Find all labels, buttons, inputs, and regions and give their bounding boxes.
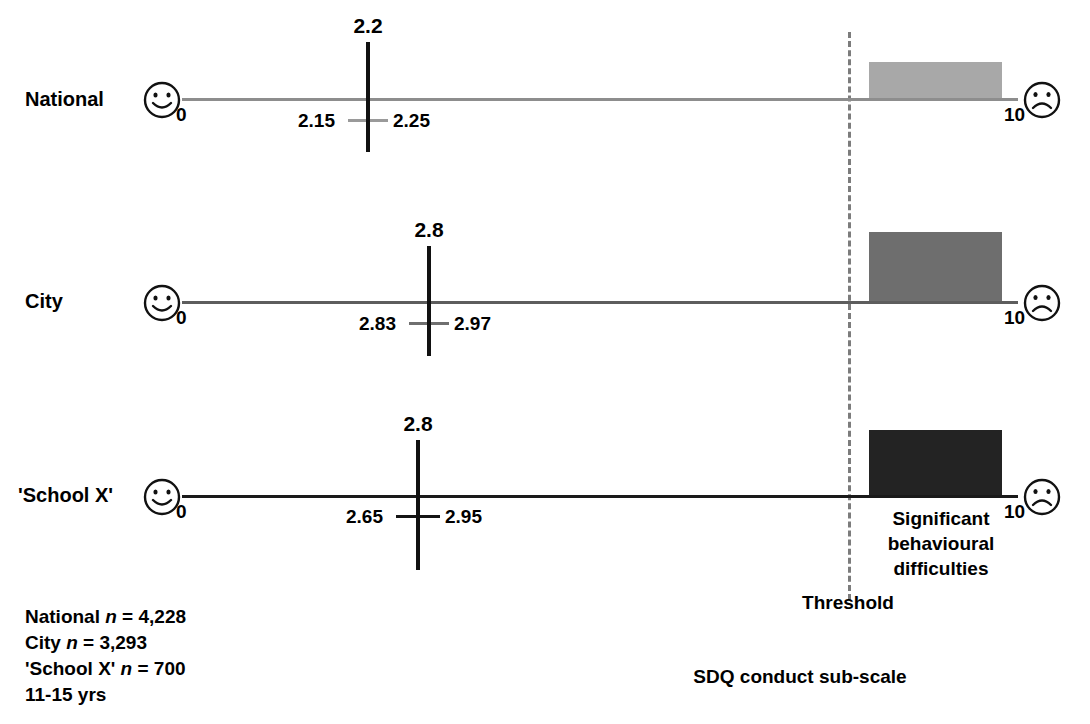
sample-size-notes: National n = 4,228 City n = 3,293 'Schoo… (25, 604, 186, 708)
row-label-city: City (25, 290, 63, 313)
ci-whisker-right-national (370, 119, 388, 122)
sad-face-icon (1022, 477, 1062, 517)
ci-lower-label-national: 2.15 (215, 110, 335, 132)
estimate-value-city: 2.8 (379, 218, 479, 242)
note-national-n: n (105, 606, 117, 627)
note-national-suffix: = 4,228 (117, 606, 186, 627)
axis-line-city (182, 301, 1018, 304)
axis-line-school-x (182, 495, 1018, 498)
axis-min-label-city: 0 (176, 307, 187, 329)
ci-lower-label-school-x: 2.65 (263, 506, 383, 528)
ci-lower-label-city: 2.83 (276, 313, 396, 335)
note-line-school-x: 'School X' n = 700 (25, 656, 186, 682)
note-line-city: City n = 3,293 (25, 630, 186, 656)
note-line-national: National n = 4,228 (25, 604, 186, 630)
note-city-n: n (66, 632, 78, 653)
ci-whisker-right-city (431, 322, 449, 325)
estimate-marker-national (366, 42, 370, 152)
note-line-age-range: 11-15 yrs (25, 682, 186, 708)
sad-face-icon (1022, 283, 1062, 323)
note-national-prefix: National (25, 606, 105, 627)
ci-whisker-left-city (409, 322, 427, 325)
note-school-suffix: = 700 (132, 658, 185, 679)
significance-caption-line-3: difficulties (868, 556, 1014, 581)
significance-region-caption: Significant behavioural difficulties (868, 506, 1014, 581)
threshold-line (848, 32, 851, 600)
axis-caption: SDQ conduct sub-scale (650, 666, 950, 688)
ci-upper-label-school-x: 2.95 (445, 506, 565, 528)
significance-box-national (869, 62, 1002, 98)
estimate-value-school-x: 2.8 (368, 412, 468, 436)
significance-caption-line-1: Significant (868, 506, 1014, 531)
note-school-prefix: 'School X' (25, 658, 121, 679)
axis-line-national (182, 98, 1018, 101)
row-label-national: National (25, 88, 104, 111)
note-city-prefix: City (25, 632, 66, 653)
chart-canvas: National 0 10 2.2 2.15 2.25 City (0, 0, 1090, 724)
estimate-marker-school-x (416, 440, 420, 570)
ci-whisker-right-school-x (420, 515, 440, 518)
ci-whisker-left-national (348, 119, 366, 122)
note-city-suffix: = 3,293 (78, 632, 147, 653)
ci-whisker-left-school-x (396, 515, 416, 518)
sad-face-icon (1022, 80, 1062, 120)
estimate-marker-city (427, 246, 431, 356)
ci-upper-label-city: 2.97 (454, 313, 574, 335)
ci-upper-label-national: 2.25 (393, 110, 513, 132)
axis-min-label-national: 0 (176, 104, 187, 126)
significance-box-city (869, 232, 1002, 301)
estimate-value-national: 2.2 (318, 14, 418, 38)
note-school-n: n (121, 658, 133, 679)
significance-box-school-x (869, 430, 1002, 495)
axis-min-label-school-x: 0 (176, 501, 187, 523)
threshold-caption: Threshold (768, 592, 928, 614)
row-label-school-x: 'School X' (18, 484, 113, 507)
significance-caption-line-2: behavioural (868, 531, 1014, 556)
